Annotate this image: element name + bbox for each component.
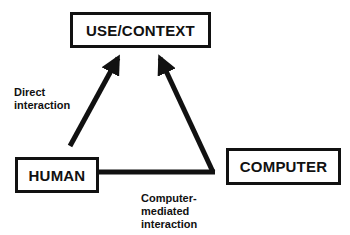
mediated-label-line2: mediated — [141, 205, 197, 218]
node-human-label: HUMAN — [29, 167, 86, 184]
node-human: HUMAN — [15, 157, 99, 193]
computer-context-arrow — [160, 58, 213, 172]
mediated-label-line1: Computer- — [141, 192, 197, 205]
direct-label-line1: Direct — [14, 86, 70, 99]
mediated-interaction-label: Computer- mediated interaction — [141, 192, 197, 231]
direct-interaction-label: Direct interaction — [14, 86, 70, 112]
mediated-label-line3: interaction — [141, 218, 197, 231]
node-use-context: USE/CONTEXT — [70, 12, 211, 48]
node-computer-label: COMPUTER — [240, 158, 327, 175]
node-use-context-label: USE/CONTEXT — [86, 22, 195, 39]
direct-label-line2: interaction — [14, 99, 70, 112]
node-computer: COMPUTER — [226, 148, 341, 185]
direct-interaction-arrow — [70, 58, 118, 146]
